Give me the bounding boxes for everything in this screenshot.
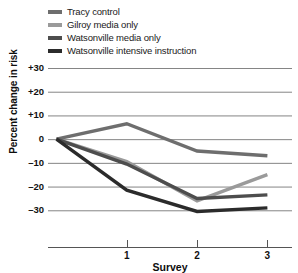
legend-item-label: Gilroy media only xyxy=(67,20,138,30)
chart-container: Tracy control Gilroy media only Watsonvi… xyxy=(0,0,298,273)
legend-swatch-icon xyxy=(48,10,62,14)
legend-item: Watsonville media only xyxy=(48,31,294,44)
y-axis-tick-labels: +30+20+100–10–20–30 xyxy=(14,68,44,234)
legend-item: Watsonville intensive instruction xyxy=(48,44,294,57)
chart-legend: Tracy control Gilroy media only Watsonvi… xyxy=(48,5,294,57)
y-axis-tick-label: +20 xyxy=(18,87,44,97)
legend-item-label: Watsonville media only xyxy=(67,33,161,43)
x-axis-tick-mark xyxy=(267,240,268,248)
legend-swatch-icon xyxy=(48,49,62,53)
y-axis-tick-label: +10 xyxy=(18,110,44,120)
x-axis-tick-mark xyxy=(197,240,198,248)
y-axis-tick-label: –20 xyxy=(18,182,44,192)
y-axis-tick-label: 0 xyxy=(18,134,44,144)
data-line xyxy=(56,139,267,201)
x-axis-line xyxy=(48,247,292,248)
y-axis-tick-label: +30 xyxy=(18,63,44,73)
legend-item: Tracy control xyxy=(48,5,294,18)
plot-area xyxy=(48,68,292,234)
plot-svg xyxy=(48,68,292,234)
y-axis-tick-label: –10 xyxy=(18,158,44,168)
legend-item: Gilroy media only xyxy=(48,18,294,31)
legend-item-label: Watsonville intensive instruction xyxy=(67,46,196,56)
x-axis-title: Survey xyxy=(48,261,292,273)
x-axis-tick-label: 1 xyxy=(117,250,137,261)
y-axis-tick-label: –30 xyxy=(18,205,44,215)
x-axis: 123 Survey xyxy=(48,236,292,272)
legend-swatch-icon xyxy=(48,36,62,40)
legend-item-label: Tracy control xyxy=(67,7,120,17)
x-axis-tick-mark xyxy=(127,240,128,248)
legend-swatch-icon xyxy=(48,23,62,27)
x-axis-tick-label: 2 xyxy=(187,250,207,261)
x-axis-tick-label: 3 xyxy=(257,250,277,261)
data-series-group xyxy=(56,124,267,212)
